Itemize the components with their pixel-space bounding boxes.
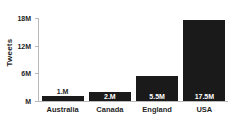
- y-tick-label-12m: 12M: [17, 42, 31, 49]
- bar-value-england: 5.5M: [136, 93, 178, 100]
- bar-canada[interactable]: 2.M: [89, 92, 131, 101]
- bar-series: 1.M 2.M 5.5M 17.5M: [39, 18, 228, 101]
- plot-area: 18M 12M 6M M 1.M 2.M: [38, 18, 228, 101]
- y-tick-mark-12m: 12M: [35, 46, 38, 47]
- x-axis-labels: Australia Canada England USA: [39, 105, 228, 114]
- bar-slot-england: 5.5M: [136, 18, 178, 101]
- bar-slot-australia: 1.M: [42, 18, 84, 101]
- bar-usa[interactable]: 17.5M: [183, 20, 225, 101]
- bar-slot-canada: 2.M: [89, 18, 131, 101]
- y-tick-mark-6m: 6M: [35, 73, 38, 74]
- y-tick-label-18m: 18M: [17, 15, 31, 22]
- bar-slot-usa: 17.5M: [183, 18, 225, 101]
- bar-england[interactable]: 5.5M: [136, 76, 178, 101]
- bar-value-australia: 1.M: [42, 88, 84, 95]
- x-label-australia: Australia: [42, 105, 84, 114]
- bar-value-canada: 2.M: [89, 93, 131, 100]
- x-axis-line: [38, 101, 228, 102]
- y-tick-label-0m: M: [25, 98, 31, 105]
- x-label-usa: USA: [183, 105, 225, 114]
- bar-australia[interactable]: 1.M: [42, 96, 84, 101]
- y-axis-title: Tweets: [5, 27, 14, 79]
- x-label-england: England: [136, 105, 178, 114]
- y-tick-mark-0m: M: [35, 101, 38, 102]
- bar-chart: Tweets 18M 12M 6M M 1.M: [0, 0, 232, 125]
- y-tick-label-6m: 6M: [21, 70, 31, 77]
- y-tick-mark-18m: 18M: [35, 18, 38, 19]
- x-label-canada: Canada: [89, 105, 131, 114]
- bar-value-usa: 17.5M: [183, 93, 225, 100]
